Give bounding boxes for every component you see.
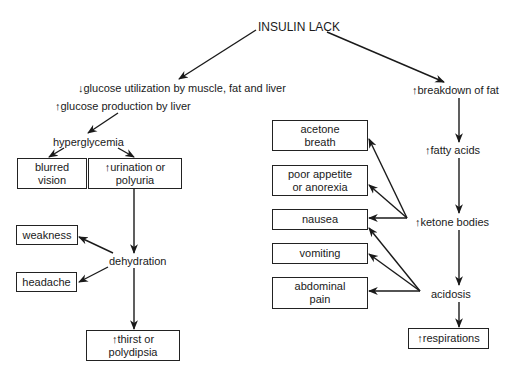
node-hyperglycemia: hyperglycemia [53,136,124,149]
box-abdominal-pain: abdominalpain [272,277,368,309]
node-acidosis: acidosis [431,288,471,301]
box-poor-appetite: poor appetiteor anorexia [272,165,368,196]
box-urination: ↑urination orpolyuria [88,158,182,189]
box-vomiting: vomiting [272,243,368,264]
box-nausea: nausea [272,209,368,230]
node-breakdown-of-fat: ↑breakdown of fat [412,84,499,97]
node-glucose-utilization: ↓glucose utilization by muscle, fat and … [78,82,286,95]
box-thirst: ↑thirst orpolydipsia [86,330,180,361]
box-blurred-vision: blurredvision [17,158,87,189]
node-ketone-bodies: ↑ketone bodies [415,216,489,229]
box-headache: headache [16,272,77,292]
root-insulin-lack: INSULIN LACK [258,21,340,34]
node-glucose-production: ↑glucose production by liver [55,100,191,113]
node-fatty-acids: ↑fatty acids [425,144,480,157]
box-weakness: weakness [16,225,78,245]
node-dehydration: dehydration [109,255,167,268]
box-acetone-breath: acetonebreath [272,120,368,151]
box-respirations: ↑respirations [408,328,489,349]
